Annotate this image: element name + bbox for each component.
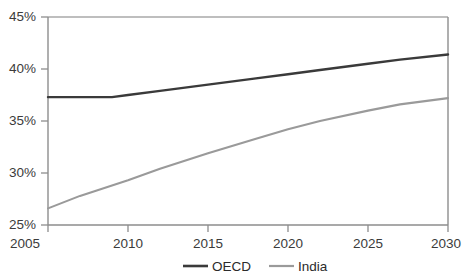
legend-label-oecd: OECD	[212, 259, 251, 274]
y-tick-label-30: 30%	[9, 165, 36, 180]
series-lines	[48, 54, 448, 208]
y-axis-ticks	[41, 17, 48, 225]
chart-canvas: 45% 40% 35% 30% 25% 2005 2010 2015 2020 …	[0, 0, 470, 279]
y-tick-label-25: 25%	[9, 217, 36, 232]
y-tick-label-40: 40%	[9, 61, 36, 76]
y-tick-label-35: 35%	[9, 113, 36, 128]
legend-label-india: India	[298, 259, 328, 274]
x-axis-tick-labels: 2005 2010 2015 2020 2025 2030	[10, 236, 461, 251]
x-tick-label-2030: 2030	[431, 236, 461, 251]
x-tick-label-2015: 2015	[193, 236, 223, 251]
chart-legend: OECD India	[183, 259, 328, 274]
series-line-india	[48, 98, 448, 208]
y-axis-tick-labels: 45% 40% 35% 30% 25%	[9, 9, 36, 232]
x-tick-label-2020: 2020	[273, 236, 303, 251]
series-line-oecd	[48, 54, 448, 97]
line-chart: 45% 40% 35% 30% 25% 2005 2010 2015 2020 …	[0, 0, 470, 279]
x-tick-label-2025: 2025	[353, 236, 383, 251]
x-tick-label-2010: 2010	[113, 236, 143, 251]
x-axis-ticks	[48, 225, 448, 232]
y-tick-label-45: 45%	[9, 9, 36, 24]
plot-frame	[48, 17, 448, 225]
x-tick-label-2005: 2005	[10, 236, 40, 251]
